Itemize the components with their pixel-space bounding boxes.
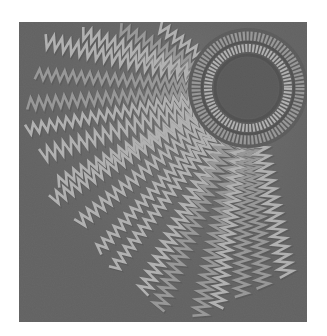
embroidery-artwork (19, 22, 307, 322)
embroidery-photo (19, 22, 307, 322)
fabric-texture (19, 22, 307, 322)
